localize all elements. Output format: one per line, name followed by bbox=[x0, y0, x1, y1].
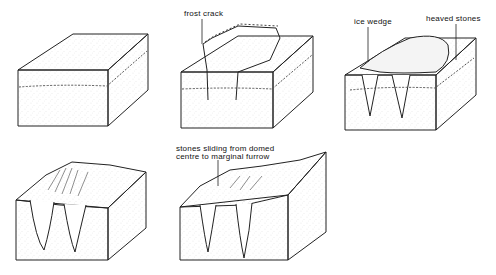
panel-1-block bbox=[18, 34, 148, 126]
ice-wedge-label: ice wedge bbox=[354, 17, 392, 26]
panel-4-block bbox=[16, 162, 146, 260]
stones-sliding-label-line2: centre to marginal furrow bbox=[176, 152, 269, 161]
heaved-mound bbox=[360, 36, 449, 73]
diagram-canvas bbox=[0, 0, 496, 275]
heaved-stones-label: heaved stones bbox=[426, 14, 481, 23]
panel-5-block bbox=[180, 152, 326, 260]
frost-crack-label: frost crack bbox=[184, 9, 223, 18]
panel-2-block bbox=[181, 24, 313, 128]
